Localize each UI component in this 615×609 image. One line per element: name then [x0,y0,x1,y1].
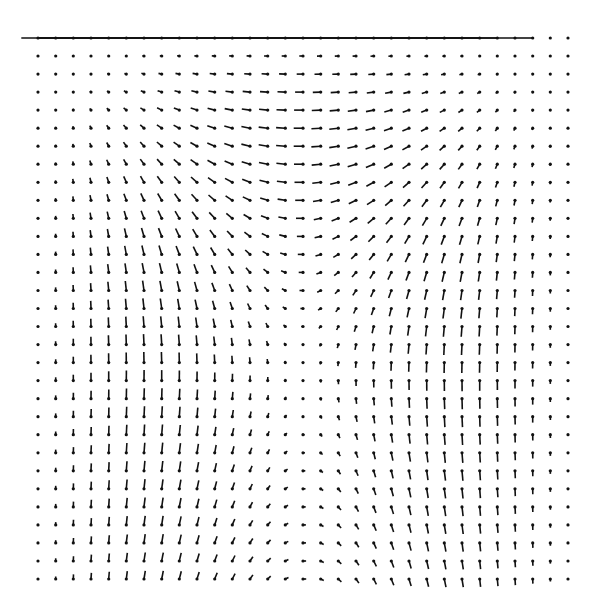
grid-point [566,54,569,57]
grid-point [354,289,357,292]
grid-point [195,271,198,274]
grid-point [178,145,181,148]
grid-point [107,343,110,346]
grid-point [195,54,198,57]
grid-point [284,127,287,130]
grid-point [425,307,428,310]
grid-point [231,109,234,112]
grid-point [248,451,251,454]
grid-point [372,253,375,256]
grid-point [284,325,287,328]
grid-point [390,559,393,562]
grid-point [425,325,428,328]
grid-point [266,54,269,57]
grid-point [549,73,552,76]
grid-point [531,253,534,256]
grid-point [72,253,75,256]
grid-point [319,559,322,562]
grid-point [248,127,251,130]
grid-point [178,451,181,454]
grid-point [531,289,534,292]
grid-point [531,397,534,400]
grid-point [337,271,340,274]
grid-point [284,559,287,562]
grid-point [425,181,428,184]
grid-point [531,235,534,238]
grid-point [496,577,499,580]
grid-point [125,397,128,400]
grid-point [390,433,393,436]
grid-point [107,181,110,184]
grid-point [337,181,340,184]
grid-point [54,397,57,400]
grid-point [54,361,57,364]
grid-point [36,289,39,292]
grid-point [160,217,163,220]
grid-point [160,325,163,328]
grid-point [337,54,340,57]
grid-point [407,541,410,544]
grid-point [36,307,39,310]
grid-point [125,217,128,220]
grid-point [337,523,340,526]
grid-point [284,523,287,526]
grid-point [337,307,340,310]
vector-field [21,36,569,587]
grid-point [125,307,128,310]
grid-point [213,271,216,274]
grid-point [407,73,410,76]
grid-point [160,271,163,274]
grid-point [89,271,92,274]
grid-point [390,181,393,184]
grid-point [513,487,516,490]
grid-point [231,451,234,454]
grid-point [337,487,340,490]
grid-point [213,181,216,184]
grid-point [36,217,39,220]
grid-point [549,541,552,544]
grid-point [337,163,340,166]
grid-point [107,271,110,274]
grid-point [496,289,499,292]
grid-point [36,469,39,472]
grid-point [549,487,552,490]
grid-point [231,415,234,418]
grid-point [160,361,163,364]
grid-point [319,433,322,436]
grid-point [319,145,322,148]
grid-point [425,541,428,544]
grid-point [178,307,181,310]
grid-point [549,361,552,364]
grid-point [54,289,57,292]
grid-point [301,235,304,238]
grid-point [89,559,92,562]
grid-point [301,433,304,436]
grid-point [496,235,499,238]
grid-point [301,271,304,274]
grid-point [496,505,499,508]
grid-point [443,541,446,544]
grid-point [107,307,110,310]
grid-point [54,54,57,57]
grid-point [266,235,269,238]
grid-point [231,325,234,328]
grid-point [178,235,181,238]
grid-point [496,523,499,526]
grid-point [443,217,446,220]
grid-point [354,505,357,508]
grid-point [566,343,569,346]
grid-point [248,361,251,364]
grid-point [390,127,393,130]
grid-point [566,577,569,580]
grid-point [89,73,92,76]
grid-point [89,145,92,148]
grid-point [301,505,304,508]
grid-point [478,397,481,400]
grid-point [36,271,39,274]
grid-point [107,217,110,220]
grid-point [284,433,287,436]
grid-point [54,343,57,346]
grid-point [107,523,110,526]
grid-point [142,487,145,490]
grid-point [284,253,287,256]
